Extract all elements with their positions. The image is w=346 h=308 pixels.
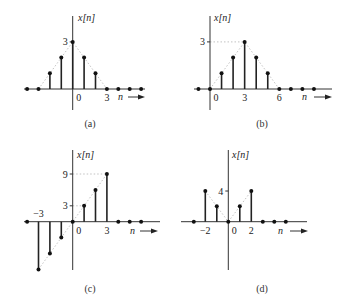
stem-marker (71, 220, 75, 224)
panel-b: 3036x[n]n (194, 12, 332, 110)
stem-marker (128, 220, 132, 224)
caption-c: (c) (84, 283, 95, 294)
stem-plots-canvas: 303x[n]n3036x[n]n93−303x[n]n4−202x[n]n (0, 0, 346, 308)
x-tick-label: 2 (249, 225, 254, 236)
x-axis-label: n (118, 91, 123, 102)
stem-marker (220, 71, 224, 75)
caption-a: (a) (84, 118, 95, 129)
arrow-head-icon (325, 95, 332, 100)
x-tick-label: 0 (232, 225, 237, 236)
stem-marker (139, 87, 143, 91)
x-axis-label: n (130, 225, 135, 236)
stem-marker (215, 204, 219, 208)
caption-b: (b) (256, 118, 268, 129)
x-tick-label: 3 (104, 92, 109, 103)
stem-marker (261, 220, 265, 224)
stem-marker (277, 87, 281, 91)
x-tick-label: −2 (200, 225, 211, 236)
stem-marker (249, 189, 253, 193)
stem-marker (139, 220, 143, 224)
stem-marker (266, 71, 270, 75)
x-tick-label: 0 (214, 92, 219, 103)
y-axis-label: x[n] (76, 149, 94, 160)
stem-marker (82, 204, 86, 208)
stem-marker (25, 87, 29, 91)
x-tick-label: 3 (104, 225, 109, 236)
stem-marker (105, 87, 109, 91)
x-tick-label: 3 (242, 92, 247, 103)
stem-marker (208, 87, 212, 91)
stem-marker (192, 220, 196, 224)
y-axis-label: x[n] (213, 12, 231, 23)
x-tick-label: 6 (277, 92, 282, 103)
x-axis-label: n (302, 91, 307, 102)
stem-marker (289, 87, 293, 91)
y-tick-label: 3 (200, 36, 205, 47)
stem-marker (59, 56, 63, 60)
stem-marker (272, 220, 276, 224)
stem-marker (196, 87, 200, 91)
y-tick-label: 3 (63, 36, 68, 47)
stem-marker (238, 204, 242, 208)
caption-d: (d) (256, 283, 268, 294)
stem-marker (37, 267, 41, 271)
stem-marker (203, 189, 207, 193)
stem-marker (25, 220, 29, 224)
arrow-head-icon (301, 229, 308, 234)
stem-marker (71, 40, 75, 44)
panel-a: 303x[n]n (24, 12, 145, 110)
stem-marker (116, 220, 120, 224)
arrow-head-icon (138, 95, 145, 100)
stem-marker (284, 220, 288, 224)
stem-marker (37, 87, 41, 91)
y-tick-label: 3 (63, 200, 68, 211)
y-axis-label: x[n] (77, 12, 95, 23)
y-tick-label: 9 (63, 169, 68, 180)
x-tick-label: −3 (33, 208, 44, 219)
stem-marker (254, 56, 258, 60)
stem-marker (226, 220, 230, 224)
panel-d: 4−202x[n]n (181, 149, 308, 270)
x-axis-label: n (278, 225, 283, 236)
x-tick-label: 0 (76, 225, 81, 236)
stem-marker (94, 188, 98, 192)
stem-marker (312, 87, 316, 91)
stem-marker (48, 71, 52, 75)
y-tick-label: 4 (218, 186, 223, 197)
x-tick-label: 0 (76, 92, 81, 103)
panel-c: 93−303x[n]n (24, 149, 160, 271)
stem-marker (59, 236, 63, 240)
stem-marker (231, 56, 235, 60)
stem-marker (243, 40, 247, 44)
stem-marker (48, 252, 52, 256)
stem-marker (82, 56, 86, 60)
figure: 303x[n]n3036x[n]n93−303x[n]n4−202x[n]n (… (0, 0, 346, 308)
y-axis-label: x[n] (231, 149, 249, 160)
stem-marker (94, 71, 98, 75)
arrow-head-icon (151, 229, 158, 234)
stem-marker (105, 172, 109, 176)
stem-marker (128, 87, 132, 91)
